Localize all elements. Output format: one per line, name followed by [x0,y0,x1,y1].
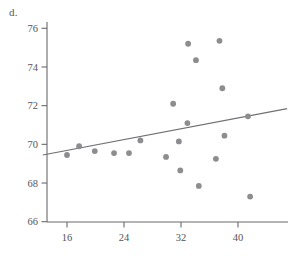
scatter-plot-figure: d. 666870727476 16243240 [0,0,294,259]
data-point [217,38,223,44]
data-point [76,143,82,149]
panel-label: d. [9,6,18,18]
x-tick-label: 24 [119,232,130,243]
data-point [185,41,191,47]
data-point [170,101,176,107]
axes-group [47,22,288,222]
data-point [222,133,228,139]
data-point [245,113,251,119]
y-tick-group: 666870727476 [28,23,48,227]
data-points-group [64,38,253,199]
x-tick-label: 16 [62,232,73,243]
data-point [177,168,183,174]
data-point [196,183,202,189]
data-point [126,150,132,156]
data-point [92,148,98,154]
x-tick-label: 32 [176,232,187,243]
y-tick-label: 70 [28,139,39,150]
x-tick-group: 16243240 [62,222,244,243]
y-tick-label: 76 [28,23,39,34]
data-point [219,85,225,91]
data-point [247,194,253,200]
data-point [193,57,199,63]
data-point [176,139,182,145]
y-tick-label: 68 [28,178,39,189]
data-point [111,150,117,156]
data-point [185,120,191,126]
y-tick-label: 66 [28,216,39,227]
y-tick-label: 72 [28,100,39,111]
data-point [163,154,169,160]
x-tick-label: 40 [233,232,244,243]
data-point [213,156,219,162]
y-tick-label: 74 [28,62,39,73]
data-point [64,152,70,158]
data-point [137,138,143,144]
plot-canvas: 666870727476 16243240 [0,0,294,259]
